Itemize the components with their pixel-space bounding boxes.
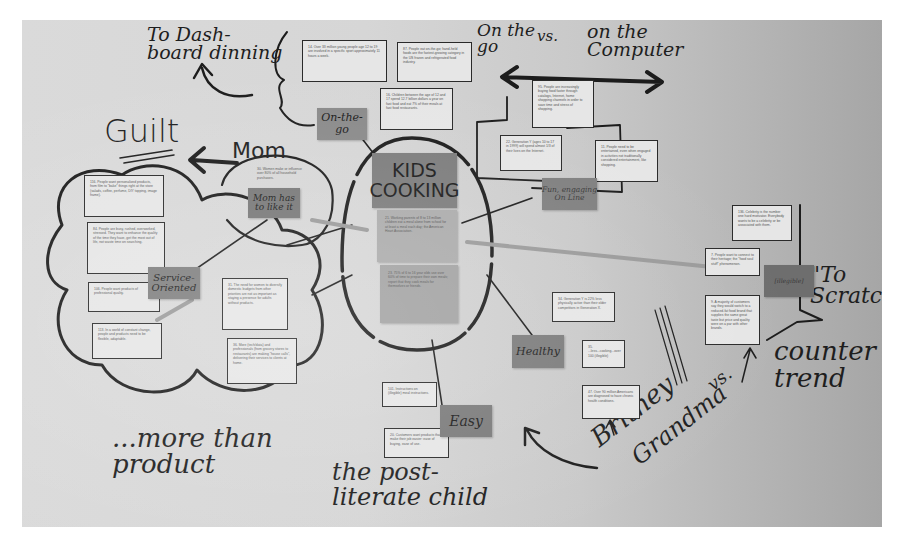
card-101: 101. Instructions on (illegible) meal in…	[382, 382, 437, 407]
card-14: 14. Over 33 million young people age 12 …	[302, 40, 387, 82]
sticky-card-23: 23. 75% of 6 to 16 year olds use over 60…	[380, 265, 458, 323]
guilt-underline	[120, 150, 174, 163]
on-the-computer-label: on the Computer	[587, 22, 683, 58]
card-95: 95. People are increasingly buying food …	[532, 80, 594, 128]
card-35: 35. ...less...cooking...over 100 (illegi…	[582, 340, 625, 368]
card-9: 9. A majority of customers say they woul…	[705, 295, 760, 345]
counter-trend-label: counter trend	[774, 338, 876, 393]
card-87: 87. People eat on-the-go; hand-held food…	[397, 42, 472, 82]
card-136: 136. Celebrity is the number one hard mo…	[732, 205, 792, 241]
dashboard-arrow	[194, 64, 252, 96]
card-30: 30. Women make or influence over 80% of …	[252, 163, 310, 185]
sticky-whole-meal: [illegible]	[764, 265, 814, 297]
on-the-go-label: On the go	[477, 22, 535, 54]
card-47: 47. Over 90 million Americans are diagno…	[582, 385, 640, 419]
whiteboard-photo: To Dash- board dinning On the go vs. on …	[22, 20, 882, 527]
grandma-arrow	[742, 348, 756, 382]
sticky-mom-has-to-like-it: Mom has to like it	[248, 188, 300, 218]
sticky-easy: Easy	[440, 405, 492, 437]
guilt-arrow	[190, 148, 237, 172]
guilt-label: Guilt	[104, 115, 179, 147]
dashboard-dining-label: To Dash- board dinning	[147, 25, 282, 61]
card-31: 31. The need for women to diversify dome…	[222, 278, 288, 330]
card-22: 22. Generation Y (ages 10 to 17 in 1999)…	[500, 135, 562, 171]
card-113: 113. In a world of constant change, peop…	[92, 323, 162, 359]
sticky-service-oriented: Service- Oriented	[148, 267, 200, 299]
post-literate-arrow	[525, 428, 597, 468]
sticky-kids-cooking: KIDS COOKING	[372, 153, 457, 208]
card-7: 7. People want to connect to their herit…	[705, 248, 760, 276]
sticky-healthy: Healthy	[512, 335, 564, 368]
sticky-fun-engaging-online: Fun, engaging On Line	[542, 178, 597, 210]
card-36: 36. More (tech/data) and professionals (…	[227, 338, 297, 384]
more-than-product-label: ...more than product	[112, 425, 273, 477]
card-116: 116. People want personalized products, …	[84, 175, 164, 217]
card-16: 16. Children between the age of 12 and 1…	[380, 88, 453, 130]
sticky-card-21: 21. Working parents of 8 to 13 million c…	[377, 210, 457, 262]
card-11: 11. People need to be entertained, even …	[595, 140, 658, 182]
card-34: 34. Generation Y is 22% less physically …	[552, 292, 615, 322]
vs-label: vs.	[537, 29, 558, 44]
to-scratch-label: "To Scratch"	[810, 265, 882, 307]
post-literate-child-label: the post- literate child	[332, 460, 488, 510]
sticky-on-the-go: On-the- go	[317, 108, 367, 140]
mom-label: Mom	[232, 140, 286, 162]
